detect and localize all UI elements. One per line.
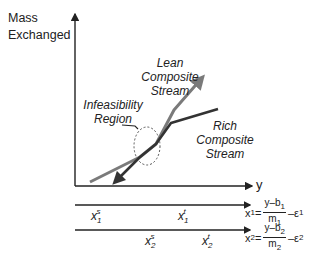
y-axis-title-line2: Exchanged (8, 27, 71, 44)
eq1-epsilon: –ε (288, 207, 299, 219)
rich-label-line3: Stream (185, 147, 265, 161)
lean-label-line3: Stream (135, 84, 205, 98)
lean-label-line2: Composite (135, 70, 205, 84)
rich-label-line2: Composite (185, 133, 265, 147)
infeasibility-label-line2: Region (78, 112, 148, 126)
infeasibility-label-line1: Infeasibility (78, 98, 148, 112)
eq2-fraction: y–b2 m2 (263, 222, 286, 253)
rich-label-line1: Rich (185, 119, 265, 133)
lean-label-line1: Lean (135, 56, 205, 70)
eq2-epsilon: –ε (288, 232, 299, 244)
rich-stream-label: Rich Composite Stream (185, 119, 265, 161)
eq1-epsilon-sub: 1 (299, 208, 303, 217)
x-axis-label: y (256, 178, 263, 192)
x1-supply-start: x1s (91, 207, 100, 225)
y-axis-title: Mass Exchanged (8, 10, 71, 44)
x2-supply-start: x2s (145, 232, 154, 250)
y-axis-title-line1: Mass (8, 10, 71, 27)
eq2-epsilon-sub: 2 (299, 233, 303, 242)
lean-stream-label: Lean Composite Stream (135, 56, 205, 98)
x2-equation: x2= y–b2 m2 –ε2 (245, 222, 303, 253)
infeasibility-region-label: Infeasibility Region (78, 98, 148, 126)
x2-target: x2t (202, 232, 210, 250)
x1-target: x1t (178, 207, 186, 225)
